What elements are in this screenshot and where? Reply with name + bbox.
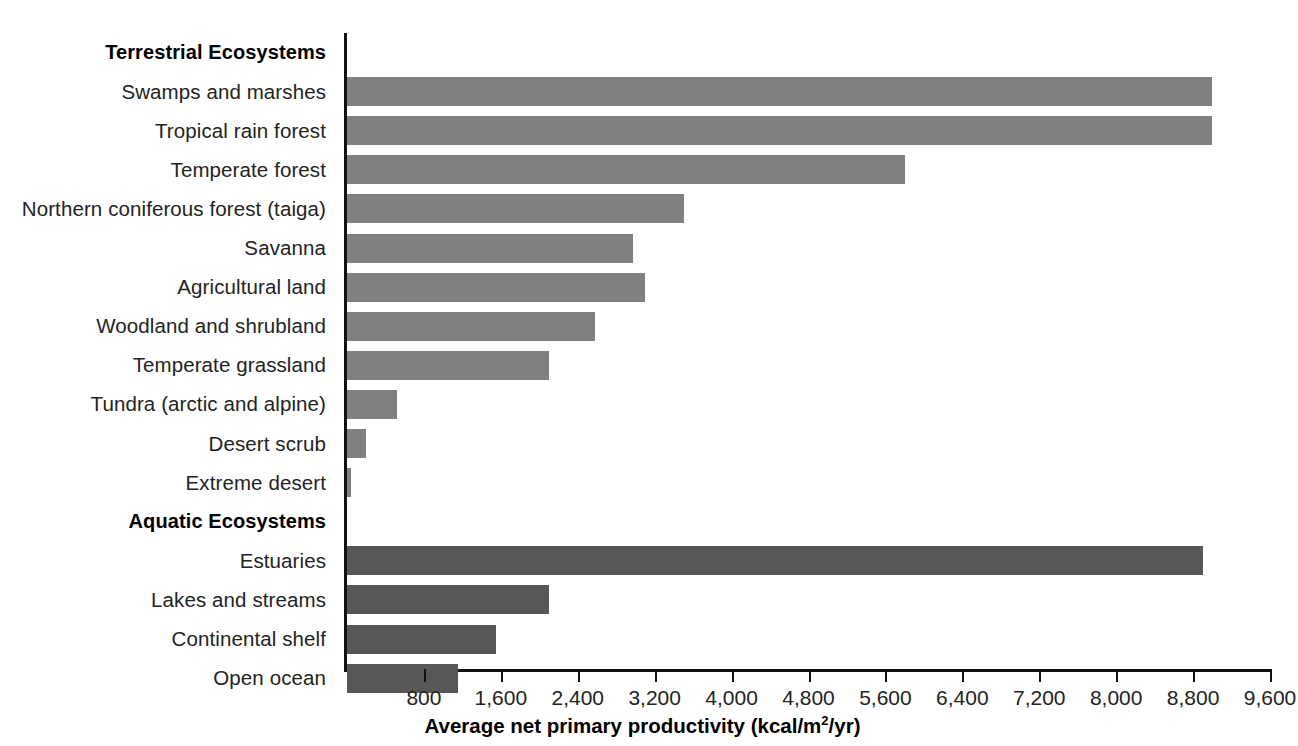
bar-category-label: Northern coniferous forest (taiga) [0,189,326,228]
section-heading-row: Terrestrial Ecosystems [0,33,1298,72]
bar-row: Northern coniferous forest (taiga) [0,189,1298,228]
section-heading-row: Aquatic Ecosystems [0,502,1298,541]
x-axis-title-tail: /yr) [829,714,861,737]
bar-terrestrial [347,116,1212,145]
x-tick [885,669,887,682]
bar-terrestrial [347,312,595,341]
bar-row: Savanna [0,229,1298,268]
bar-category-label: Continental shelf [0,620,326,659]
bar-row: Woodland and shrubland [0,307,1298,346]
x-tick [809,669,811,682]
bar-row: Temperate forest [0,150,1298,189]
x-axis-title: Average net primary productivity (kcal/m… [0,714,1285,738]
bar-row: Estuaries [0,541,1298,580]
x-axis-title-text: Average net primary productivity (kcal/m [425,714,822,737]
bar-row: Desert scrub [0,424,1298,463]
bar-category-label: Savanna [0,229,326,268]
bar-aquatic [347,625,496,654]
bar-terrestrial [347,234,633,263]
bar-category-label: Temperate forest [0,150,326,189]
bar-terrestrial [347,390,397,419]
bar-terrestrial [347,273,645,302]
bar-aquatic [347,546,1203,575]
bar-aquatic [347,585,549,614]
x-tick [1039,669,1041,682]
bar-category-label: Open ocean [0,659,326,698]
x-tick-label: 9,600 [1210,686,1298,710]
bar-row: Tropical rain forest [0,111,1298,150]
x-tick [655,669,657,682]
npp-bar-chart: Terrestrial EcosystemsSwamps and marshes… [0,0,1298,746]
x-tick [1116,669,1118,682]
bar-category-label: Extreme desert [0,463,326,502]
x-tick [1193,669,1195,682]
bar-category-label: Estuaries [0,541,326,580]
section-heading-label: Terrestrial Ecosystems [0,33,326,72]
bar-category-label: Desert scrub [0,424,326,463]
bar-row: Lakes and streams [0,580,1298,619]
bar-terrestrial [347,351,549,380]
x-tick [732,669,734,682]
x-tick [501,669,503,682]
bar-row: Temperate grassland [0,346,1298,385]
bar-row: Swamps and marshes [0,72,1298,111]
bar-category-label: Lakes and streams [0,580,326,619]
bar-category-label: Woodland and shrubland [0,307,326,346]
bar-terrestrial [347,155,905,184]
bar-terrestrial [347,194,684,223]
bar-terrestrial [347,77,1212,106]
x-axis-title-superscript: 2 [821,713,828,728]
bar-category-label: Temperate grassland [0,346,326,385]
bar-category-label: Tundra (arctic and alpine) [0,385,326,424]
bar-row: Continental shelf [0,620,1298,659]
x-tick [962,669,964,682]
bar-row: Extreme desert [0,463,1298,502]
x-tick [424,669,426,682]
bar-terrestrial [347,468,351,497]
bar-terrestrial [347,429,366,458]
section-heading-label: Aquatic Ecosystems [0,502,326,541]
bar-category-label: Agricultural land [0,268,326,307]
bar-category-label: Tropical rain forest [0,111,326,150]
bar-row: Tundra (arctic and alpine) [0,385,1298,424]
bar-category-label: Swamps and marshes [0,72,326,111]
x-tick [578,669,580,682]
x-tick [1270,669,1272,682]
bar-row: Agricultural land [0,268,1298,307]
